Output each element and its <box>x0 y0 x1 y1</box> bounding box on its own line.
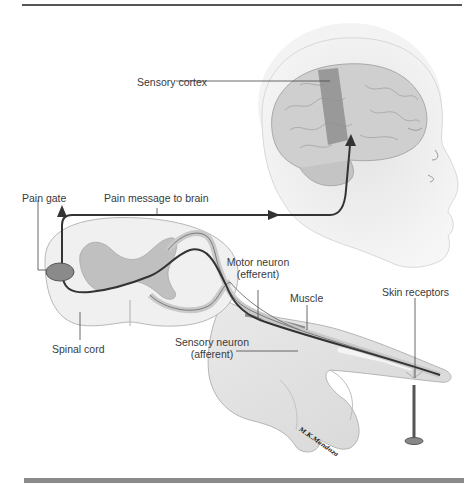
pin-stimulus <box>405 370 423 445</box>
arrow-right-icon <box>268 210 280 220</box>
pain-gate-marker <box>46 263 74 281</box>
label-sensory-cortex: Sensory cortex <box>137 76 207 88</box>
label-skin-receptors: Skin receptors <box>382 286 449 298</box>
label-sensory-neuron-line1: Sensory neuron <box>170 336 254 348</box>
label-pain-gate: Pain gate <box>22 192 66 204</box>
label-muscle: Muscle <box>290 292 323 304</box>
label-spinal-cord: Spinal cord <box>52 343 105 355</box>
label-sensory-neuron-line2: (afferent) <box>170 348 254 360</box>
label-motor-neuron: Motor neuron (efferent) <box>216 256 300 280</box>
bottom-rule <box>24 478 464 483</box>
label-motor-neuron-line1: Motor neuron <box>216 256 300 268</box>
arrow-up-icon <box>57 205 67 217</box>
pain-pathway-illustration <box>0 0 474 485</box>
label-motor-neuron-line2: (efferent) <box>216 268 300 280</box>
label-sensory-neuron: Sensory neuron (afferent) <box>170 336 254 360</box>
label-pain-message: Pain message to brain <box>104 192 208 204</box>
